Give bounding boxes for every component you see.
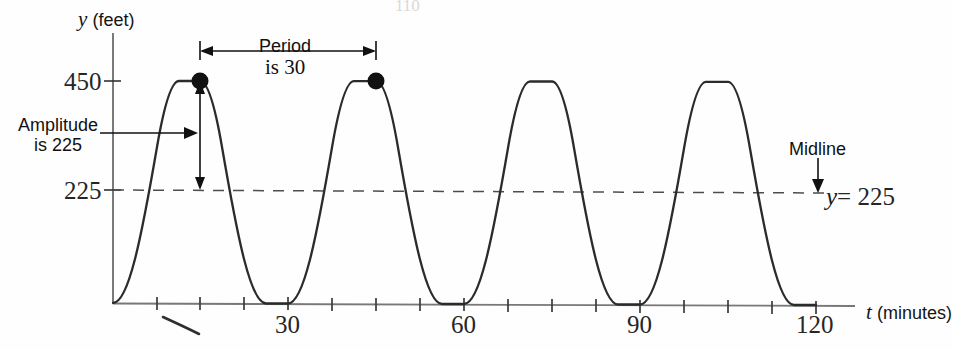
amplitude-measure-arrow [195,81,205,190]
period-annotation-line2: is 30 [259,56,311,80]
sinusoid-figure: y (feet) 450 225 Amplitude is 225 Period… [0,0,953,349]
y-axis-title-unit: (feet) [93,10,135,30]
midline-annotation: Midline [789,139,846,159]
peak-marker-2 [368,73,385,90]
x-axis-title-variable: t [866,300,872,324]
midline-equation-value: = 225 [837,183,895,210]
midline-leader-arrow [812,158,824,193]
x-axis-title: t (minutes) [866,301,952,325]
amplitude-annotation-line2: is 225 [18,135,98,155]
y-axis-title: y (feet) [78,8,135,32]
scan-smudge-text: 110 [395,0,420,15]
x-axis [113,304,855,307]
midline-dashed-line [113,190,830,193]
x-tick-label-30: 30 [275,311,300,339]
y-tick-label-225: 225 [64,177,102,205]
amplitude-annotation-line1: Amplitude [18,115,98,135]
amplitude-annotation: Amplitude is 225 [18,115,98,155]
sinusoid-curve [113,81,816,305]
x-tick-label-120: 120 [796,311,834,339]
x-tick-label-90: 90 [627,311,652,339]
scan-pen-stroke-artifact [163,317,199,334]
y-axis-title-variable: y [78,7,87,31]
period-annotation: Period is 30 [259,36,311,80]
x-axis-title-unit: (minutes) [877,303,952,323]
period-annotation-line1: Period [259,36,311,56]
y-tick-label-450: 450 [64,68,102,96]
plot-canvas [0,0,953,349]
midline-equation: y= 225 [826,183,895,211]
x-tick-label-60: 60 [451,311,476,339]
amplitude-leader-arrow [100,127,198,139]
midline-equation-variable: y [826,183,837,210]
